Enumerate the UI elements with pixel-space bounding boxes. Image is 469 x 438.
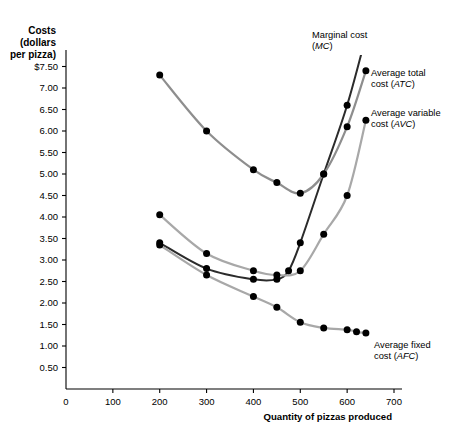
annotation-mc-line2: (MC) <box>312 41 333 51</box>
y-axis-title-line-1: Costs <box>28 25 56 36</box>
point-avc-1 <box>203 250 210 257</box>
data-points <box>156 67 369 336</box>
y-tick-label-14: $7.50 <box>34 61 58 72</box>
annotation-afc-line1: Average fixed <box>374 340 431 350</box>
axes: 0.501.001.502.002.503.003.504.004.505.00… <box>10 25 402 422</box>
curve-atc <box>160 71 366 194</box>
point-avc-0 <box>156 211 163 218</box>
point-atc-1 <box>203 128 210 135</box>
y-axis-title-line-3: per pizza) <box>10 49 56 60</box>
y-tick-label-12: 6.50 <box>40 104 59 115</box>
x-tick-label-0: 0 <box>63 396 68 407</box>
x-tick-label-5: 500 <box>292 396 308 407</box>
y-tick-label-11: 6.00 <box>40 125 59 136</box>
point-afc-4 <box>297 319 304 326</box>
point-mc-1 <box>203 265 210 272</box>
point-avc-4 <box>297 267 304 274</box>
point-afc-7 <box>353 328 360 335</box>
point-afc-3 <box>273 304 280 311</box>
annotation-avc: Average variablecost (AVC) <box>371 108 441 129</box>
y-tick-label-9: 5.00 <box>40 168 59 179</box>
point-mc-7 <box>344 102 351 109</box>
y-tick-label-3: 2.00 <box>40 297 59 308</box>
point-atc-6 <box>344 123 351 130</box>
annotation-atc-line2: cost (ATC) <box>371 79 415 89</box>
x-tick-label-2: 200 <box>152 396 168 407</box>
point-avc-7 <box>362 117 369 124</box>
point-avc-6 <box>344 192 351 199</box>
point-atc-3 <box>273 179 280 186</box>
x-tick-label-6: 600 <box>339 396 355 407</box>
point-afc-8 <box>362 330 369 337</box>
annotation-atc-line1: Average total <box>371 68 426 78</box>
y-tick-label-5: 3.00 <box>40 254 59 265</box>
x-tick-label-4: 400 <box>245 396 261 407</box>
annotation-atc: Average totalcost (ATC) <box>371 68 426 89</box>
curve-annotations: Marginal cost(MC)Average totalcost (ATC)… <box>312 30 441 361</box>
point-atc-7 <box>362 67 369 74</box>
annotation-avc-line2: cost (AVC) <box>371 119 415 129</box>
y-axis-title-line-2: (dollars <box>20 37 57 48</box>
y-tick-label-6: 3.50 <box>40 233 59 244</box>
x-tick-label-7: 700 <box>386 396 402 407</box>
point-afc-5 <box>320 324 327 331</box>
point-afc-2 <box>250 293 257 300</box>
y-tick-label-13: 7.00 <box>40 82 59 93</box>
y-tick-label-10: 5.50 <box>40 147 59 158</box>
y-tick-label-4: 2.50 <box>40 276 59 287</box>
annotation-afc: Average fixedcost (AFC) <box>374 340 431 361</box>
point-avc-5 <box>320 231 327 238</box>
point-afc-0 <box>156 241 163 248</box>
y-tick-label-7: 4.00 <box>40 211 59 222</box>
annotation-mc-line1: Marginal cost <box>312 30 368 40</box>
point-mc-2 <box>250 276 257 283</box>
point-atc-0 <box>156 72 163 79</box>
annotation-avc-line1: Average variable <box>371 108 441 118</box>
point-afc-6 <box>344 326 351 333</box>
y-tick-label-8: 4.50 <box>40 190 59 201</box>
annotation-afc-line2: cost (AFC) <box>374 351 418 361</box>
point-atc-4 <box>297 190 304 197</box>
x-tick-label-3: 300 <box>199 396 215 407</box>
curves <box>160 36 366 333</box>
x-axis-title: Quantity of pizzas produced <box>264 411 393 422</box>
annotation-mc: Marginal cost(MC) <box>312 30 368 51</box>
point-avc-3 <box>273 272 280 279</box>
y-tick-label-2: 1.50 <box>40 319 59 330</box>
curve-afc <box>160 245 366 333</box>
cost-curves-chart: 0.501.001.502.002.503.003.504.004.505.00… <box>0 0 469 438</box>
curve-mc <box>160 36 366 280</box>
y-tick-label-0: 0.50 <box>40 362 59 373</box>
chart-canvas: 0.501.001.502.002.503.003.504.004.505.00… <box>0 0 469 438</box>
point-avc-2 <box>250 267 257 274</box>
point-atc-5 <box>320 171 327 178</box>
point-atc-2 <box>250 166 257 173</box>
y-tick-label-1: 1.00 <box>40 340 59 351</box>
point-mc-5 <box>297 239 304 246</box>
point-mc-4 <box>285 267 292 274</box>
x-tick-label-1: 100 <box>105 396 121 407</box>
point-afc-1 <box>203 272 210 279</box>
